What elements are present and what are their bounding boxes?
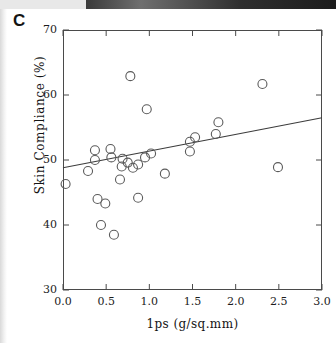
x-tick-label: 0.5: [91, 296, 121, 307]
data-point-marker: [258, 79, 267, 88]
data-point-marker: [142, 105, 151, 114]
scatter-plot-canvas: [63, 30, 322, 290]
data-point-marker: [214, 118, 223, 127]
data-point-marker: [211, 130, 220, 139]
data-point-marker: [106, 144, 115, 153]
data-point-marker: [126, 72, 135, 81]
header-bar-dark: [86, 0, 336, 9]
regression-line: [63, 118, 322, 168]
x-tick-label: 0.0: [48, 296, 78, 307]
data-point-marker: [90, 156, 99, 165]
x-tick-label: 1.5: [178, 296, 208, 307]
data-point-marker: [96, 221, 105, 230]
figure-panel-c: C 3040506070 0.00.51.01.52.02.53.0 Skin …: [0, 0, 336, 343]
data-point-marker: [134, 193, 143, 202]
data-point-marker: [128, 163, 137, 172]
data-point-marker: [84, 167, 93, 176]
data-points: [61, 72, 282, 240]
data-point-marker: [101, 199, 110, 208]
left-rail: [0, 9, 7, 343]
data-point-marker: [109, 230, 118, 239]
data-point-marker: [273, 163, 282, 172]
data-point-marker: [160, 169, 169, 178]
data-point-marker: [61, 180, 70, 189]
trend-line: [63, 118, 322, 168]
data-point-marker: [185, 147, 194, 156]
x-tick-label: 3.0: [307, 296, 336, 307]
x-tick-label: 1.0: [134, 296, 164, 307]
data-point-marker: [134, 160, 143, 169]
y-tick-label: 30: [31, 284, 57, 295]
data-point-marker: [115, 175, 124, 184]
x-tick-label: 2.0: [221, 296, 251, 307]
y-axis-title: Skin Compliance (%): [33, 25, 47, 225]
data-point-marker: [90, 146, 99, 155]
x-tick-label: 2.5: [264, 296, 294, 307]
x-axis-title: 1ps (g/sq.mm): [63, 317, 322, 331]
panel-label: C: [13, 12, 25, 29]
header-bar-light: [0, 0, 86, 9]
